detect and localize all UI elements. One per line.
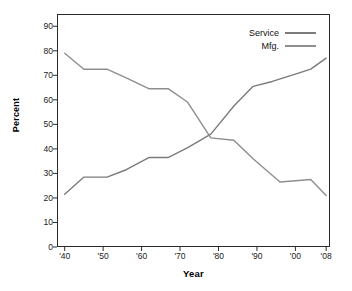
x-tick-label: '80 bbox=[205, 252, 231, 261]
y-tick-label: 20 bbox=[33, 194, 53, 203]
chart-legend: Service Mfg. bbox=[196, 26, 316, 52]
y-tick-label: 90 bbox=[33, 22, 53, 31]
x-tick-label: '00 bbox=[282, 252, 308, 261]
x-tick-label: '50 bbox=[90, 252, 116, 261]
y-tick-label: 50 bbox=[33, 120, 53, 129]
y-tick-label: 80 bbox=[33, 47, 53, 56]
y-tick-label: 60 bbox=[33, 96, 53, 105]
legend-swatch-service bbox=[285, 32, 316, 34]
y-tick-label: 70 bbox=[33, 71, 53, 80]
x-tick-label: '70 bbox=[167, 252, 193, 261]
y-tick-label: 10 bbox=[33, 218, 53, 227]
legend-item-service: Service bbox=[196, 26, 316, 39]
x-tick-label: '90 bbox=[244, 252, 270, 261]
x-axis-tick-labels: '40'50'60'70'80'90'00'08 bbox=[0, 252, 352, 266]
y-tick-label: 40 bbox=[33, 145, 53, 154]
legend-item-mfg: Mfg. bbox=[196, 39, 316, 52]
y-axis-title: Percent bbox=[11, 85, 21, 145]
y-tick-label: 30 bbox=[33, 169, 53, 178]
x-axis-title: Year bbox=[57, 268, 330, 279]
y-tick-label: 0 bbox=[33, 243, 53, 252]
legend-label-mfg: Mfg. bbox=[261, 41, 279, 51]
legend-label-service: Service bbox=[249, 28, 279, 38]
legend-swatch-mfg bbox=[285, 45, 316, 47]
line-chart: Percent Year 0102030405060708090 '40'50'… bbox=[0, 0, 352, 291]
y-axis-tick-labels: 0102030405060708090 bbox=[30, 0, 53, 291]
x-tick-label: '40 bbox=[52, 252, 78, 261]
x-tick-label: '08 bbox=[313, 252, 339, 261]
x-tick-label: '60 bbox=[129, 252, 155, 261]
